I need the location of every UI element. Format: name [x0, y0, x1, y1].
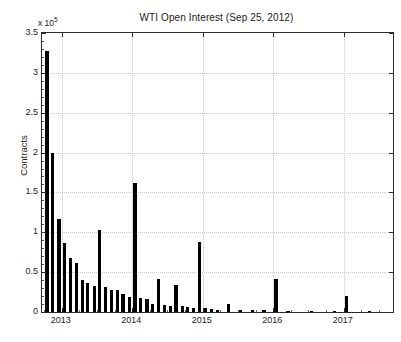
y-tick-mark: [42, 272, 46, 273]
y-tick-label: 3: [4, 67, 38, 77]
y-tick-label: 1: [4, 226, 38, 236]
gridline-horizontal: [42, 73, 393, 74]
gridline-vertical: [344, 33, 345, 312]
bar: [310, 311, 313, 312]
bar: [93, 286, 96, 312]
bar: [98, 230, 101, 312]
y-tick-mark-right: [389, 192, 393, 193]
y-minor-tick-mark: [42, 184, 44, 185]
gridline-horizontal: [42, 113, 393, 114]
y-minor-tick-mark: [42, 200, 44, 201]
bar: [116, 290, 119, 312]
bar: [198, 242, 201, 312]
x-minor-tick-mark: [167, 310, 168, 312]
bar: [204, 308, 207, 312]
x-tick-label: 2013: [41, 315, 81, 325]
x-minor-tick-mark: [115, 310, 116, 312]
y-minor-tick-mark: [42, 208, 44, 209]
x-minor-tick-mark: [150, 310, 151, 312]
y-tick-mark-right: [389, 113, 393, 114]
gridline-vertical: [203, 33, 204, 312]
y-tick-label: 2: [4, 147, 38, 157]
chart-figure: WTI Open Interest (Sep 25, 2012) x 105 C…: [0, 0, 401, 342]
y-tick-mark: [42, 192, 46, 193]
gridline-horizontal: [42, 232, 393, 233]
y-minor-tick-mark: [42, 121, 44, 122]
x-tick-mark: [344, 308, 345, 312]
x-tick-mark: [203, 308, 204, 312]
x-tick-mark-top: [344, 33, 345, 37]
y-minor-tick-mark: [42, 89, 44, 90]
bar: [262, 310, 265, 312]
bar: [128, 297, 131, 312]
y-axis-exponent-label: x 105: [38, 16, 58, 28]
bar: [81, 280, 84, 312]
x-minor-tick-mark: [238, 310, 239, 312]
y-minor-tick-mark: [42, 216, 44, 217]
x-tick-mark: [132, 308, 133, 312]
x-tick-label: 2016: [252, 315, 292, 325]
y-minor-tick-mark: [42, 169, 44, 170]
x-tick-mark-top: [132, 33, 133, 37]
y-minor-tick-mark: [42, 232, 44, 233]
y-tick-label: 2.5: [4, 107, 38, 117]
y-minor-tick-mark: [42, 81, 44, 82]
bar: [192, 308, 195, 312]
bar: [239, 310, 242, 312]
x-tick-mark-top: [203, 33, 204, 37]
bar: [210, 309, 213, 312]
y-minor-tick-mark: [42, 264, 44, 265]
x-minor-tick-mark: [97, 310, 98, 312]
bar: [75, 263, 78, 312]
x-tick-mark-top: [62, 33, 63, 37]
y-tick-label: 0: [4, 306, 38, 316]
plot-area: [41, 32, 394, 313]
bar: [57, 219, 60, 312]
x-tick-mark: [62, 308, 63, 312]
y-minor-tick-mark: [42, 224, 44, 225]
y-tick-mark-right: [389, 153, 393, 154]
bar: [274, 279, 277, 312]
y-tick-label: 0.5: [4, 266, 38, 276]
chart-title: WTI Open Interest (Sep 25, 2012): [41, 12, 392, 23]
bar: [251, 310, 254, 312]
x-tick-label: 2015: [182, 315, 222, 325]
x-minor-tick-mark: [220, 310, 221, 312]
y-minor-tick-mark: [42, 248, 44, 249]
y-tick-mark-right: [389, 33, 393, 34]
y-minor-tick-mark: [42, 296, 44, 297]
gridline-horizontal: [42, 153, 393, 154]
x-minor-tick-mark: [379, 310, 380, 312]
y-tick-mark-right: [389, 232, 393, 233]
bar: [133, 183, 136, 312]
y-minor-tick-mark: [42, 256, 44, 257]
bar: [104, 287, 107, 312]
bar: [181, 306, 184, 312]
x-tick-label: 2017: [323, 315, 363, 325]
y-tick-mark: [42, 73, 46, 74]
x-minor-tick-mark: [79, 310, 80, 312]
y-tick-mark: [42, 153, 46, 154]
y-minor-tick-mark: [42, 176, 44, 177]
y-minor-tick-mark: [42, 65, 44, 66]
bar: [186, 307, 189, 312]
y-minor-tick-mark: [42, 288, 44, 289]
gridline-vertical: [273, 33, 274, 312]
y-tick-mark-right: [389, 272, 393, 273]
y-exponent-base: x 10: [38, 18, 54, 28]
y-tick-mark-right: [389, 73, 393, 74]
x-minor-tick-mark: [326, 310, 327, 312]
y-minor-tick-mark: [42, 105, 44, 106]
x-tick-label: 2014: [111, 315, 151, 325]
bar: [86, 283, 89, 312]
y-tick-mark: [42, 113, 46, 114]
bar: [368, 311, 371, 312]
y-minor-tick-mark: [42, 240, 44, 241]
bar: [121, 294, 124, 312]
bar: [139, 298, 142, 312]
bar: [216, 310, 219, 312]
bar: [333, 311, 336, 312]
bar: [63, 243, 66, 312]
y-minor-tick-mark: [42, 145, 44, 146]
y-tick-label: 3.5: [4, 27, 38, 37]
